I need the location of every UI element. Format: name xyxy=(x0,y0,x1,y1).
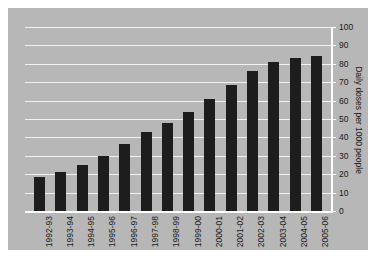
y-axis-tick xyxy=(331,137,336,138)
bar-slot xyxy=(306,27,327,211)
bar-slot xyxy=(135,27,156,211)
bar xyxy=(119,144,130,211)
y-axis-tick xyxy=(331,64,336,65)
x-axis-label-slot: 2002-03 xyxy=(242,214,263,250)
y-axis-tick-label: 60 xyxy=(339,96,348,105)
bar-slot xyxy=(114,27,135,211)
bar xyxy=(247,71,258,211)
x-axis-label-slot: 2005-06 xyxy=(306,214,327,250)
x-axis-label-slot: 1992-93 xyxy=(29,214,50,250)
y-axis-tick xyxy=(331,45,336,46)
plot-area xyxy=(25,27,331,211)
y-axis-tick xyxy=(331,27,336,28)
bar-slot xyxy=(93,27,114,211)
bar xyxy=(162,123,173,211)
bar xyxy=(141,132,152,211)
y-axis-title: Daily doses per 1000 people xyxy=(352,27,366,212)
x-axis-label-slot: 1999-00 xyxy=(178,214,199,250)
x-axis-label-slot: 2001-02 xyxy=(221,214,242,250)
y-axis-tick-label: 20 xyxy=(339,170,348,179)
x-axis-tick-label: 2005-06 xyxy=(320,216,330,247)
bar-slot xyxy=(29,27,50,211)
bar xyxy=(98,156,109,211)
y-axis-title-text: Daily doses per 1000 people xyxy=(354,66,364,174)
x-axis-label-slot: 2003-04 xyxy=(263,214,284,250)
x-axis-line xyxy=(25,211,333,213)
bar xyxy=(77,165,88,211)
x-axis-label-slot: 2000-01 xyxy=(199,214,220,250)
bar xyxy=(290,58,301,211)
x-axis-label-slot: 1998-99 xyxy=(157,214,178,250)
y-axis-tick xyxy=(331,174,336,175)
bar xyxy=(311,56,322,211)
bar-slot xyxy=(284,27,305,211)
bar-slot xyxy=(199,27,220,211)
y-axis-tick xyxy=(331,82,336,83)
y-axis-tick-label: 50 xyxy=(339,115,348,124)
y-axis-tick-label: 0 xyxy=(339,207,344,216)
y-axis-tick-label: 30 xyxy=(339,152,348,161)
bar xyxy=(226,85,237,211)
y-axis-tick xyxy=(331,211,336,212)
x-axis-label-slot: 1996-97 xyxy=(114,214,135,250)
bar-series xyxy=(25,27,331,211)
bar-slot xyxy=(263,27,284,211)
y-axis-tick-label: 40 xyxy=(339,133,348,142)
y-axis-tick-label: 70 xyxy=(339,78,348,87)
x-axis-label-slot: 2004-05 xyxy=(284,214,305,250)
x-axis-label-slot: 1994-95 xyxy=(72,214,93,250)
y-axis-tick-label: 100 xyxy=(339,23,353,32)
x-axis-label-slot: 1995-96 xyxy=(93,214,114,250)
bar xyxy=(55,172,66,211)
y-axis-tick-label: 90 xyxy=(339,41,348,50)
y-axis-tick-label: 80 xyxy=(339,60,348,69)
y-axis-tick xyxy=(331,193,336,194)
y-axis-tick xyxy=(331,101,336,102)
bar xyxy=(183,112,194,211)
bar-slot xyxy=(178,27,199,211)
bar-slot xyxy=(221,27,242,211)
y-axis-tick xyxy=(331,119,336,120)
bar-chart: Daily doses per 1000 people 1992-931993-… xyxy=(0,0,376,258)
y-axis-tick-label: 10 xyxy=(339,188,348,197)
x-axis-label-slot: 1993-94 xyxy=(50,214,71,250)
bar xyxy=(268,62,279,211)
x-axis-labels: 1992-931993-941994-951995-961996-971997-… xyxy=(25,214,331,250)
bar xyxy=(204,99,215,211)
y-axis-tick xyxy=(331,156,336,157)
bar-slot xyxy=(242,27,263,211)
bar-slot xyxy=(50,27,71,211)
x-axis-label-slot: 1997-98 xyxy=(135,214,156,250)
bar xyxy=(34,177,45,211)
bar-slot xyxy=(157,27,178,211)
bar-slot xyxy=(72,27,93,211)
chart-panel: Daily doses per 1000 people 1992-931993-… xyxy=(8,8,368,250)
